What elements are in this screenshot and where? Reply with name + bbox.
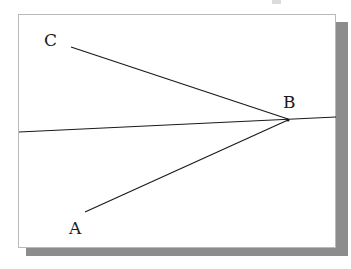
geometry-figure: C B A (0, 0, 351, 269)
point-label-a: A (69, 220, 81, 237)
point-label-c: C (44, 32, 57, 49)
ray-a-to-b (85, 120, 288, 212)
vertex-point-b (286, 118, 289, 121)
ray-c-to-b (71, 47, 288, 119)
point-label-b: B (283, 94, 296, 111)
